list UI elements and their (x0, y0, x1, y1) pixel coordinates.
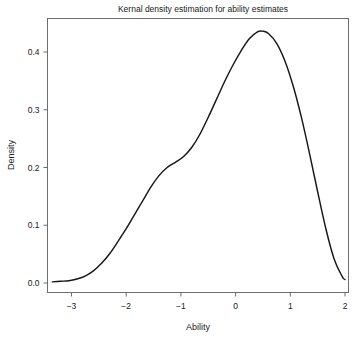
y-tick-label: 0.2 (28, 163, 40, 173)
x-tick-label: 0 (233, 301, 238, 311)
y-tick-label: 0.4 (28, 47, 40, 57)
x-tick-label: −1 (176, 301, 186, 311)
y-axis-title: Density (6, 139, 16, 170)
kernel-density-chart: Kernal density estimation for ability es… (0, 0, 359, 339)
x-tick-label: 1 (288, 301, 293, 311)
y-tick-label: 0.3 (28, 105, 40, 115)
figure-caption (0, 331, 359, 339)
x-tick-label: 2 (343, 301, 348, 311)
x-axis: −3−2−1012 (67, 293, 348, 311)
y-tick-label: 0.1 (28, 220, 40, 230)
x-tick-label: −2 (121, 301, 131, 311)
y-tick-label: 0.0 (28, 278, 40, 288)
x-tick-label: −3 (67, 301, 77, 311)
chart-title: Kernal density estimation for ability es… (118, 4, 288, 14)
density-curve (52, 31, 345, 282)
plot-frame (48, 19, 349, 293)
y-axis: 0.00.10.20.30.4 (28, 47, 48, 288)
